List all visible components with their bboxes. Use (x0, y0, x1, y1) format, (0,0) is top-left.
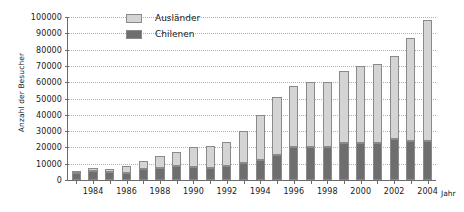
bar-segment-chilenen (390, 139, 399, 180)
bar-1992 (222, 142, 231, 180)
x-tick-mark (327, 180, 328, 184)
x-tick-mark (210, 180, 211, 184)
y-tick-label: 10000 (36, 159, 62, 168)
bar-segment-auslaender (105, 169, 114, 172)
bar-segment-chilenen (306, 147, 315, 180)
bar-1988 (155, 156, 164, 180)
x-tick-mark (344, 180, 345, 184)
bar-1989 (172, 152, 181, 180)
legend-label: Chilenen (155, 29, 194, 39)
x-tick-label: 1986 (116, 187, 137, 196)
y-tick-label: 50000 (36, 94, 62, 103)
y-tick-label: 60000 (36, 78, 62, 87)
y-tick-mark (65, 147, 69, 148)
bar-segment-auslaender (88, 168, 97, 171)
gridline (68, 17, 436, 18)
bar-segment-auslaender (172, 152, 181, 167)
bar-segment-chilenen (373, 143, 382, 180)
legend-label: Ausländer (155, 13, 200, 23)
bar-segment-auslaender (256, 115, 265, 160)
y-tick-label: 30000 (36, 127, 62, 136)
y-tick-mark (65, 115, 69, 116)
bar-segment-auslaender (272, 97, 281, 155)
x-tick-mark (277, 180, 278, 184)
x-axis-title: Jahr (441, 189, 456, 198)
bar-segment-chilenen (339, 143, 348, 180)
bar-segment-auslaender (206, 146, 215, 168)
bar-segment-auslaender (390, 56, 399, 139)
x-tick-mark (361, 180, 362, 184)
x-tick-mark (143, 180, 144, 184)
y-tick-mark (65, 33, 69, 34)
x-tick-mark (260, 180, 261, 184)
legend-item-chilenen[interactable]: Chilenen (126, 27, 200, 41)
bar-segment-auslaender (72, 171, 81, 174)
legend-swatch-icon (126, 14, 142, 23)
bar-1983 (72, 171, 81, 180)
y-tick-mark (65, 66, 69, 67)
x-tick-mark (411, 180, 412, 184)
x-tick-mark (160, 180, 161, 184)
bar-segment-chilenen (239, 163, 248, 180)
bar-segment-chilenen (289, 147, 298, 180)
bar-2003 (406, 38, 415, 180)
bar-segment-chilenen (356, 143, 365, 180)
bar-segment-chilenen (423, 141, 432, 180)
bar-segment-chilenen (105, 172, 114, 180)
y-tick-label: 70000 (36, 61, 62, 70)
bar-segment-chilenen (172, 166, 181, 180)
bar-segment-auslaender (189, 147, 198, 167)
bar-segment-chilenen (206, 168, 215, 180)
bar-segment-chilenen (323, 147, 332, 180)
bar-segment-chilenen (406, 141, 415, 180)
bar-segment-auslaender (423, 20, 432, 141)
bar-segment-chilenen (155, 168, 164, 180)
bar-segment-auslaender (306, 82, 315, 146)
x-tick-mark (294, 180, 295, 184)
x-tick-mark (127, 180, 128, 184)
x-tick-mark (76, 180, 77, 184)
bar-2000 (356, 66, 365, 180)
y-tick-label: 40000 (36, 110, 62, 119)
bar-segment-auslaender (323, 82, 332, 147)
legend-swatch-icon (126, 30, 142, 39)
bar-segment-auslaender (239, 131, 248, 163)
gridline (68, 33, 436, 34)
bar-segment-chilenen (72, 173, 81, 180)
bar-1990 (189, 147, 198, 180)
x-tick-mark (227, 180, 228, 184)
x-tick-mark (110, 180, 111, 184)
x-tick-mark (311, 180, 312, 184)
gridline (68, 50, 436, 51)
x-tick-mark (377, 180, 378, 184)
bar-segment-auslaender (356, 66, 365, 143)
x-tick-mark (394, 180, 395, 184)
y-tick-label: 20000 (36, 143, 62, 152)
x-tick-label: 1996 (283, 187, 304, 196)
y-axis-title: Anzahl der Besucher (17, 28, 26, 158)
x-tick-label: 2002 (384, 187, 405, 196)
bar-1991 (206, 146, 215, 180)
x-tick-mark (244, 180, 245, 184)
bar-segment-auslaender (289, 86, 298, 146)
y-tick-mark (65, 180, 69, 181)
bar-segment-auslaender (122, 166, 131, 173)
legend-item-auslaender[interactable]: Ausländer (126, 11, 200, 25)
bar-1984 (88, 168, 97, 180)
bar-1997 (306, 82, 315, 180)
y-tick-mark (65, 164, 69, 165)
x-tick-mark (177, 180, 178, 184)
bar-segment-chilenen (139, 169, 148, 180)
bar-segment-auslaender (373, 64, 382, 142)
x-tick-mark (193, 180, 194, 184)
bar-1996 (289, 86, 298, 180)
x-tick-label: 1984 (83, 187, 104, 196)
x-tick-label: 1988 (150, 187, 171, 196)
bar-segment-chilenen (256, 160, 265, 180)
bar-1994 (256, 115, 265, 180)
bar-segment-chilenen (272, 155, 281, 180)
bar-2001 (373, 64, 382, 180)
y-tick-label: 0 (57, 176, 62, 185)
bar-segment-auslaender (155, 156, 164, 168)
x-tick-label: 2004 (417, 187, 438, 196)
